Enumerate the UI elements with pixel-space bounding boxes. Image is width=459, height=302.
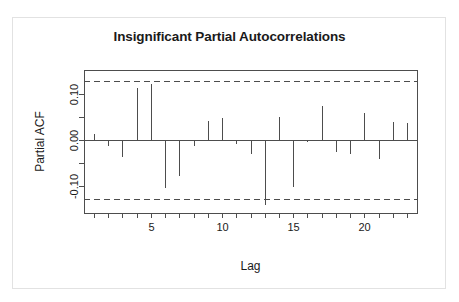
x-axis: 5101520 [95,213,408,233]
y-tick-label--0.10: -0.10 [68,174,80,199]
plot-box-border [84,70,417,213]
x-tick-label-10: 10 [216,221,228,233]
y-axis: -0.100.000.10 [68,84,84,199]
x-tick-label-20: 20 [358,221,370,233]
y-axis-title: Partial ACF [33,111,47,172]
y-tick-label-0.10: 0.10 [68,84,80,105]
figure-canvas: Insignificant Partial Autocorrelations 5… [0,0,459,302]
pacf-plot: 5101520Lag-0.100.000.10Partial ACF [0,0,459,302]
x-tick-label-15: 15 [287,221,299,233]
x-axis-title: Lag [240,259,260,273]
pacf-bars-group [95,84,408,205]
y-tick-label-0.00: 0.00 [68,130,80,151]
x-tick-label-5: 5 [148,221,154,233]
